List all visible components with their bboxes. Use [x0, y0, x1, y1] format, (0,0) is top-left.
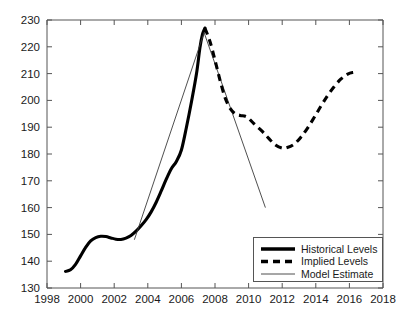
x-axis-tick-labels: 1998200020022004200620082010201220142016…	[34, 293, 396, 305]
y-tick-label: 230	[21, 14, 40, 26]
x-tick-label: 2004	[135, 293, 161, 305]
y-tick-label: 220	[21, 41, 40, 53]
y-axis-tick-labels: 130140150160170180190200210220230	[21, 14, 40, 294]
series-historical-levels	[65, 28, 204, 271]
legend-label-implied-levels: Implied Levels	[301, 255, 368, 267]
y-tick-label: 170	[21, 175, 40, 187]
chart-container: 1998200020022004200620082010201220142016…	[0, 0, 402, 315]
legend-label-historical-levels: Historical Levels	[301, 243, 377, 255]
chart-legend: Historical Levels Implied Levels Model E…	[254, 238, 383, 282]
x-tick-label: 2000	[68, 293, 94, 305]
x-tick-label: 2006	[169, 293, 195, 305]
x-tick-label: 2002	[101, 293, 127, 305]
y-tick-label: 210	[21, 68, 40, 80]
series-implied-levels	[205, 28, 358, 148]
x-tick-label: 1998	[34, 293, 60, 305]
y-tick-label: 200	[21, 94, 40, 106]
x-tick-label: 2010	[236, 293, 262, 305]
chart-series-group	[65, 28, 357, 271]
x-tick-label: 2016	[337, 293, 363, 305]
y-tick-label: 180	[21, 148, 40, 160]
legend-label-model-estimate: Model Estimate	[301, 268, 374, 280]
y-tick-label: 190	[21, 121, 40, 133]
x-tick-label: 2012	[269, 293, 295, 305]
x-tick-label: 2014	[303, 293, 329, 305]
x-tick-label: 2018	[370, 293, 396, 305]
x-tick-label: 2008	[202, 293, 228, 305]
y-tick-label: 160	[21, 202, 40, 214]
line-chart: 1998200020022004200620082010201220142016…	[0, 0, 402, 315]
y-tick-label: 150	[21, 228, 40, 240]
y-tick-label: 130	[21, 282, 40, 294]
y-tick-label: 140	[21, 255, 40, 267]
